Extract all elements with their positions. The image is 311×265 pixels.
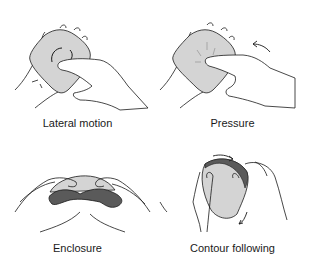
caption-enclosure: Enclosure xyxy=(0,242,155,254)
panel-enclosure: Enclosure xyxy=(0,132,155,265)
caption-lateral-motion: Lateral motion xyxy=(0,117,155,129)
panel-pressure: Pressure xyxy=(155,0,310,132)
lateral-motion-illustration xyxy=(0,0,155,132)
caption-pressure: Pressure xyxy=(155,117,310,129)
pressure-illustration xyxy=(155,0,311,132)
object-base xyxy=(49,189,122,207)
caption-contour-following: Contour following xyxy=(155,242,310,254)
panel-contour-following: Contour following xyxy=(155,132,311,265)
panel-lateral-motion: Lateral motion xyxy=(0,0,155,132)
